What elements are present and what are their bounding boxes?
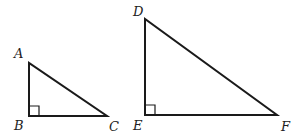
vertex-label-a: A — [13, 46, 23, 61]
triangle-abc: A B C — [13, 46, 119, 134]
vertex-label-b: B — [13, 118, 24, 133]
triangle-def: D E F — [132, 4, 291, 134]
two-right-triangles-diagram: A B C D E F — [0, 0, 303, 138]
triangle-abc-outline — [29, 63, 107, 116]
triangle-def-outline — [145, 19, 277, 115]
vertex-label-f: F — [280, 119, 291, 134]
right-angle-marker-e — [145, 105, 155, 115]
vertex-label-e: E — [132, 118, 143, 133]
vertex-label-d: D — [132, 4, 144, 19]
vertex-label-c: C — [109, 119, 119, 134]
right-angle-marker-b — [29, 106, 39, 116]
